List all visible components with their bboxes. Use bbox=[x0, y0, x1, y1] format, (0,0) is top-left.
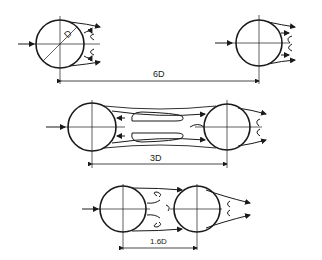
spacing-label-6d: 6D bbox=[153, 70, 165, 79]
downstream-cylinder bbox=[230, 15, 290, 84]
diagram-canvas bbox=[0, 0, 322, 260]
spacing-label-1-6d: 1.6D bbox=[150, 238, 167, 246]
tandem-cylinder-flow-diagram: D 6D 3D 1.6D bbox=[0, 0, 322, 260]
upstream-cylinder bbox=[98, 184, 150, 250]
upstream-cylinder bbox=[60, 100, 125, 168]
upstream-cylinder bbox=[30, 16, 100, 84]
spacing-label-3d: 3D bbox=[150, 154, 162, 163]
downstream-cylinder bbox=[170, 184, 222, 250]
